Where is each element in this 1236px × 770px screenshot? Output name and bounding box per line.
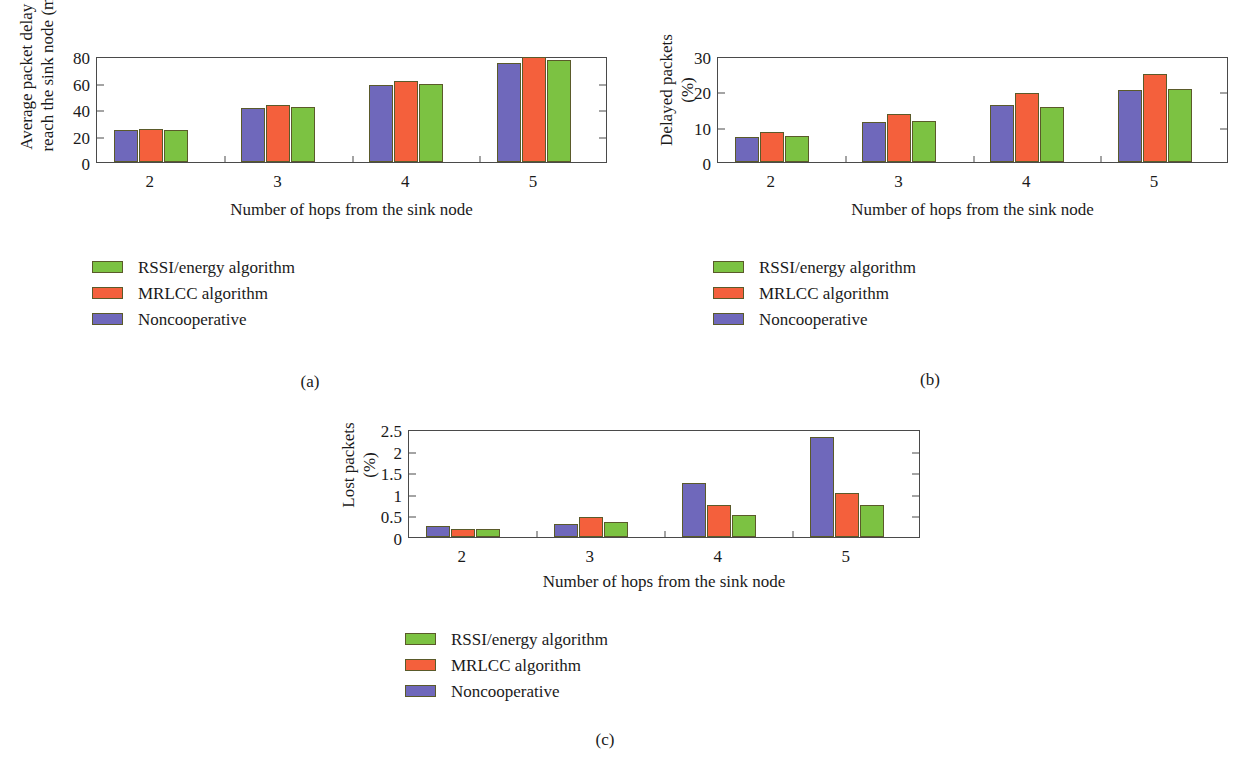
bar-group <box>552 431 630 537</box>
panel-a-bars <box>97 58 606 162</box>
panel-c-plot-area: 00.511.522.5 <box>408 430 920 538</box>
bar-group <box>988 58 1066 162</box>
panel-c-y-axis-title-line2: (%) <box>360 390 381 540</box>
legend-label-noncooperative: Noncooperative <box>138 311 247 328</box>
y-tick-mark <box>718 128 725 129</box>
x-tick-label: 3 <box>586 548 595 565</box>
y-tick-label: 0 <box>703 156 719 173</box>
panel-a-y-axis-title-line1: Average packet delay to <box>17 0 38 171</box>
bar-group <box>733 58 811 162</box>
legend-swatch-rssi <box>713 261 744 273</box>
x-tick-mark <box>1101 156 1102 162</box>
x-tick-label: 2 <box>766 173 775 190</box>
panel-a-plot-area: 020406080 <box>96 57 607 163</box>
x-tick-mark <box>352 156 353 162</box>
bar-rssi <box>291 107 315 162</box>
y-tick-label: 1 <box>394 487 410 504</box>
y-tick-label: 1.5 <box>381 466 409 483</box>
x-tick-label: 4 <box>401 173 410 190</box>
legend-label-noncooperative: Noncooperative <box>451 683 560 700</box>
y-tick-mark <box>409 474 416 475</box>
panel-b-legend: RSSI/energy algorithm MRLCC algorithm No… <box>713 256 916 334</box>
panel-a-caption: (a) <box>250 372 370 392</box>
legend-item-noncooperative: Noncooperative <box>405 680 608 702</box>
legend-label-mrlcc: MRLCC algorithm <box>138 285 268 302</box>
x-tick-label: 2 <box>458 548 467 565</box>
bar-rssi <box>912 121 936 162</box>
x-tick-mark <box>224 156 225 162</box>
y-tick-label: 80 <box>73 50 97 67</box>
panel-a-y-axis-title-line2: reach the sink node (ms) <box>37 0 58 171</box>
x-tick-label: 5 <box>842 548 851 565</box>
panel-b: Delayed packets (%) 0102030 2345 Number … <box>620 0 1236 400</box>
bar-group <box>239 58 317 162</box>
legend-item-mrlcc: MRLCC algorithm <box>405 654 608 676</box>
y-tick-label: 60 <box>73 76 97 93</box>
legend-label-rssi: RSSI/energy algorithm <box>759 259 916 276</box>
legend-label-mrlcc: MRLCC algorithm <box>759 285 889 302</box>
x-tick-mark <box>665 531 666 537</box>
y-tick-mark <box>912 474 919 475</box>
x-tick-label: 5 <box>529 173 538 190</box>
bar-noncoop <box>426 526 450 537</box>
panel-b-plot-area: 0102030 <box>717 57 1228 163</box>
y-tick-label: 0 <box>82 156 98 173</box>
bar-mrlcc <box>707 505 731 537</box>
legend-item-mrlcc: MRLCC algorithm <box>713 282 916 304</box>
bar-mrlcc <box>266 105 290 162</box>
bar-mrlcc <box>835 493 859 537</box>
x-tick-label: 4 <box>714 548 723 565</box>
panel-c-y-axis-title: Lost packets (%) <box>339 390 379 540</box>
y-tick-label: 20 <box>73 129 97 146</box>
x-tick-mark <box>845 156 846 162</box>
legend-item-rssi: RSSI/energy algorithm <box>405 628 608 650</box>
bar-noncoop <box>735 137 759 162</box>
y-tick-label: 30 <box>694 50 718 67</box>
bar-mrlcc <box>451 529 475 537</box>
x-tick-label: 3 <box>273 173 282 190</box>
y-tick-mark <box>1220 128 1227 129</box>
panel-b-bars <box>718 58 1227 162</box>
panel-b-x-axis-title: Number of hops from the sink node <box>717 200 1228 220</box>
panel-c-y-axis-title-line1: Lost packets <box>339 390 360 540</box>
x-tick-label: 3 <box>894 173 903 190</box>
legend-label-rssi: RSSI/energy algorithm <box>138 259 295 276</box>
bar-noncoop <box>369 85 393 163</box>
legend-swatch-mrlcc <box>713 287 744 299</box>
bar-noncoop <box>810 437 834 537</box>
bar-group <box>680 431 758 537</box>
bar-group <box>495 58 573 162</box>
bar-rssi <box>547 60 571 162</box>
legend-swatch-rssi <box>92 261 123 273</box>
bar-noncoop <box>990 105 1014 162</box>
y-tick-mark <box>97 111 104 112</box>
bar-group <box>112 58 190 162</box>
x-tick-mark <box>480 156 481 162</box>
y-tick-label: 2.5 <box>381 423 409 440</box>
legend-item-mrlcc: MRLCC algorithm <box>92 282 295 304</box>
legend-item-rssi: RSSI/energy algorithm <box>92 256 295 278</box>
panel-a: Average packet delay to reach the sink n… <box>0 0 620 400</box>
bar-rssi <box>419 84 443 162</box>
bar-mrlcc <box>887 114 911 162</box>
panel-b-y-axis-title-line1: Delayed packets <box>657 3 678 178</box>
bar-group <box>367 58 445 162</box>
bar-noncoop <box>862 122 886 162</box>
panel-c-caption: (c) <box>545 730 665 750</box>
bar-mrlcc <box>1143 74 1167 162</box>
bar-mrlcc <box>579 517 603 537</box>
bar-noncoop <box>114 130 138 162</box>
bar-group <box>860 58 938 162</box>
bar-noncoop <box>241 108 265 162</box>
bar-mrlcc <box>1015 93 1039 162</box>
bar-mrlcc <box>522 57 546 162</box>
y-tick-mark <box>409 452 416 453</box>
y-tick-label: 2 <box>394 444 410 461</box>
y-tick-mark <box>912 495 919 496</box>
bar-noncoop <box>497 63 521 162</box>
y-tick-label: 0.5 <box>381 509 409 526</box>
legend-label-noncooperative: Noncooperative <box>759 311 868 328</box>
bar-mrlcc <box>394 81 418 162</box>
legend-label-rssi: RSSI/energy algorithm <box>451 631 608 648</box>
legend-swatch-noncooperative <box>713 313 744 325</box>
